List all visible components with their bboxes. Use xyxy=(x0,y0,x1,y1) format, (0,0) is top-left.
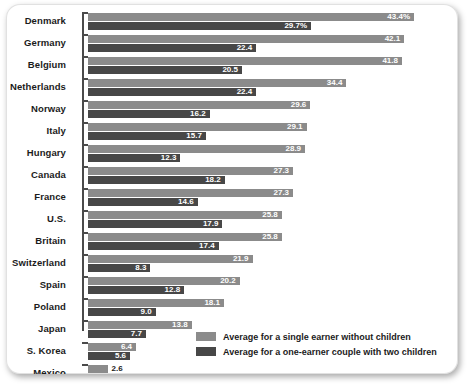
category-label: Canada xyxy=(6,169,66,180)
bar-value-label: 6.4 xyxy=(121,343,132,351)
bar-value-label: 8.3 xyxy=(135,264,146,272)
bar-group-row: Poland18.19.0 xyxy=(6,298,458,320)
category-label: Switzerland xyxy=(6,257,66,268)
bar-single-earner xyxy=(88,13,414,21)
category-label: Netherlands xyxy=(6,81,66,92)
category-label: U.S. xyxy=(6,213,66,224)
chart-card: Denmark43.4%29.7%Germany42.122.4Belgium4… xyxy=(6,4,458,374)
bar-value-label: 25.8 xyxy=(262,211,278,219)
bar-single-earner xyxy=(88,167,293,175)
bar-value-label: 12.3 xyxy=(161,154,177,162)
category-label: Japan xyxy=(6,323,66,334)
bar-group-row: Netherlands34.422.4 xyxy=(6,78,458,100)
bar-group-row: Spain20.212.8 xyxy=(6,276,458,298)
bar-chart-plot-area: Denmark43.4%29.7%Germany42.122.4Belgium4… xyxy=(6,4,458,374)
bar-value-label: 16.2 xyxy=(190,110,206,118)
bar-value-label: 18.1 xyxy=(204,299,220,307)
bar-value-label: 7.7 xyxy=(131,330,142,338)
bar-group-row: Britain25.817.4 xyxy=(6,232,458,254)
category-label: S. Korea xyxy=(6,345,66,356)
category-label: Hungary xyxy=(6,147,66,158)
bar-single-earner xyxy=(88,145,305,153)
bar-value-label: 2.6 xyxy=(112,365,123,373)
category-label: Italy xyxy=(6,125,66,136)
bar-group-row: Mexico2.62.6 xyxy=(6,364,458,374)
bar-group-row: Canada27.318.2 xyxy=(6,166,458,188)
bar-single-earner xyxy=(88,365,108,373)
legend-item-one-earner-couple: Average for a one-earner couple with two… xyxy=(196,345,437,358)
bar-value-label: 14.6 xyxy=(178,198,194,206)
bar-value-label: 43.4% xyxy=(387,13,410,21)
category-label: Britain xyxy=(6,235,66,246)
bar-single-earner xyxy=(88,189,293,197)
category-label: Belgium xyxy=(6,59,66,70)
category-label: Spain xyxy=(6,279,66,290)
bar-value-label: 5.6 xyxy=(115,352,126,360)
category-label: France xyxy=(6,191,66,202)
bar-group-row: Switzerland21.98.3 xyxy=(6,254,458,276)
bar-value-label: 41.8 xyxy=(382,57,398,65)
bar-one-earner-couple xyxy=(88,88,256,96)
bar-group-row: Germany42.122.4 xyxy=(6,34,458,56)
bar-value-label: 17.9 xyxy=(203,220,219,228)
bar-single-earner xyxy=(88,255,253,263)
bar-value-label: 20.5 xyxy=(222,66,238,74)
bar-value-label: 34.4 xyxy=(327,79,343,87)
bar-value-label: 9.0 xyxy=(140,308,151,316)
category-label: Norway xyxy=(6,103,66,114)
chart-legend: Average for a single earner without chil… xyxy=(196,330,437,360)
bar-value-label: 12.8 xyxy=(165,286,181,294)
legend-label-one-earner-couple: Average for a one-earner couple with two… xyxy=(223,347,437,357)
legend-item-single-earner: Average for a single earner without chil… xyxy=(196,330,437,343)
bar-single-earner xyxy=(88,57,402,65)
legend-swatch-icon-single-earner xyxy=(196,332,216,341)
bar-value-label: 28.9 xyxy=(286,145,302,153)
bar-value-label: 29.7% xyxy=(284,22,307,30)
bar-value-label: 22.4 xyxy=(237,88,253,96)
bar-group-row: U.S.25.817.9 xyxy=(6,210,458,232)
bar-value-label: 17.4 xyxy=(199,242,215,250)
bar-single-earner xyxy=(88,123,307,131)
bar-value-label: 15.7 xyxy=(186,132,202,140)
category-label: Mexico xyxy=(6,367,66,374)
bar-group-row: Denmark43.4%29.7% xyxy=(6,12,458,34)
legend-label-single-earner: Average for a single earner without chil… xyxy=(223,332,411,342)
category-label: Germany xyxy=(6,37,66,48)
bar-value-label: 29.1 xyxy=(287,123,303,131)
bar-group-row: Hungary28.912.3 xyxy=(6,144,458,166)
bar-group-row: Belgium41.820.5 xyxy=(6,56,458,78)
bar-value-label: 21.9 xyxy=(233,255,249,263)
bar-group-row: Italy29.115.7 xyxy=(6,122,458,144)
category-label: Denmark xyxy=(6,15,66,26)
bar-value-label: 27.3 xyxy=(273,189,289,197)
bar-one-earner-couple xyxy=(88,22,311,30)
category-label: Poland xyxy=(6,301,66,312)
bar-value-label: 13.8 xyxy=(172,321,188,329)
bar-single-earner xyxy=(88,211,282,219)
bar-value-label: 25.8 xyxy=(262,233,278,241)
bar-value-label: 27.3 xyxy=(273,167,289,175)
legend-swatch-icon-one-earner-couple xyxy=(196,347,216,356)
bar-value-label: 42.1 xyxy=(385,35,401,43)
bar-value-label: 18.2 xyxy=(205,176,221,184)
bar-single-earner xyxy=(88,79,346,87)
bar-single-earner xyxy=(88,101,310,109)
bar-single-earner xyxy=(88,233,282,241)
bar-single-earner xyxy=(88,277,240,285)
bar-one-earner-couple xyxy=(88,44,256,52)
bar-single-earner xyxy=(88,35,404,43)
bar-value-label: 29.6 xyxy=(291,101,307,109)
bar-one-earner-couple xyxy=(88,66,242,74)
bar-group-row: France27.314.6 xyxy=(6,188,458,210)
bar-value-label: 22.4 xyxy=(237,44,253,52)
bar-value-label: 20.2 xyxy=(220,277,236,285)
bar-group-row: Norway29.616.2 xyxy=(6,100,458,122)
